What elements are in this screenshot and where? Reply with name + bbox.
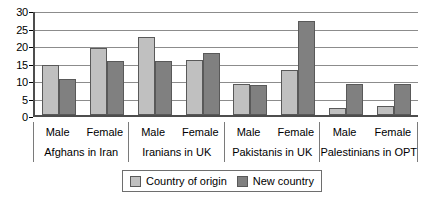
bar-group-iranians-in-uk [131,12,227,115]
bar-subgroup-female [370,12,418,115]
legend-item-new-country: New country [237,176,314,187]
x-label-female: Female [369,122,417,142]
plot-wrapper: 30 25 20 15 10 5 0 [0,6,427,122]
bar-subgroup-female [274,12,322,115]
bar-new-country [250,85,267,115]
bar-country-of-origin [233,84,250,115]
x-label-sex-row: Male Female [225,122,319,142]
bar-country-of-origin [90,48,107,115]
x-label-male: Male [34,122,81,142]
x-label-group-palestinians-in-opt: Male Female Palestinians in OPT [320,122,418,162]
x-label-origin: Palestinians in OPT [320,142,417,162]
y-tick-mark [29,117,33,118]
legend-swatch-icon [237,176,248,187]
plot-area [33,12,418,117]
bar-country-of-origin [42,65,59,115]
bar-groups [35,12,418,115]
bar-new-country [107,61,124,115]
legend-item-country-of-origin: Country of origin [130,176,227,187]
bar-country-of-origin [186,60,203,115]
bar-new-country [298,21,315,115]
bar-group-pakistanis-in-uk [227,12,323,115]
chart-legend: Country of origin New country [122,170,322,192]
x-label-group-pakistanis-in-uk: Male Female Pakistanis in UK [225,122,320,162]
bar-subgroup-male [227,12,275,115]
bar-new-country [155,61,172,115]
x-label-group-iranians-in-uk: Male Female Iranians in UK [129,122,224,162]
x-label-female: Female [81,122,128,142]
y-tick-label: 0 [0,112,28,123]
bar-new-country [59,79,76,115]
x-label-sex-row: Male Female [34,122,128,142]
x-label-male: Male [129,122,176,142]
y-axis: 30 25 20 15 10 5 0 [0,6,28,122]
x-label-sex-row: Male Female [320,122,417,142]
x-axis-label-table: Male Female Afghans in Iran Male Female … [33,122,418,162]
bar-country-of-origin [281,70,298,115]
bar-country-of-origin [377,106,394,115]
x-label-sex-row: Male Female [129,122,223,142]
y-tick-label: 15 [0,60,28,71]
grouped-bar-chart: 30 25 20 15 10 5 0 [0,0,427,205]
bar-subgroup-male [322,12,370,115]
y-tick-label: 10 [0,77,28,88]
legend-label: New country [253,176,314,187]
x-label-male: Male [225,122,272,142]
y-tick-label: 20 [0,42,28,53]
bar-country-of-origin [138,37,155,115]
x-label-female: Female [177,122,224,142]
bar-group-palestinians-in-opt [322,12,418,115]
x-label-origin: Pakistanis in UK [225,142,319,162]
y-tick-label: 5 [0,95,28,106]
bar-subgroup-male [35,12,83,115]
x-label-origin: Afghans in Iran [34,142,128,162]
legend-label: Country of origin [146,176,227,187]
x-label-origin: Iranians in UK [129,142,223,162]
bar-subgroup-male [131,12,179,115]
bar-country-of-origin [329,108,346,115]
legend-swatch-icon [130,176,141,187]
bar-group-afghans-in-iran [35,12,131,115]
x-label-female: Female [272,122,319,142]
bar-new-country [203,53,220,115]
bar-new-country [394,84,411,115]
bar-subgroup-female [179,12,227,115]
x-label-group-afghans-in-iran: Male Female Afghans in Iran [33,122,129,162]
y-tick-label: 25 [0,25,28,36]
x-label-male: Male [320,122,368,142]
bar-new-country [346,84,363,115]
bar-subgroup-female [83,12,131,115]
y-tick-label: 30 [0,7,28,18]
